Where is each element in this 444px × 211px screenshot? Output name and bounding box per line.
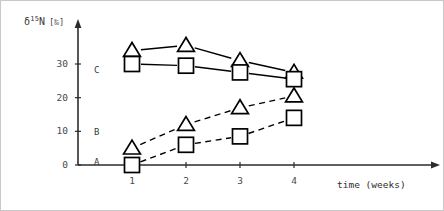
y-tick-label: 20 xyxy=(46,92,68,103)
series-segment-B-triangle xyxy=(249,98,285,106)
data-point-square-A xyxy=(125,158,140,173)
series-group-label-A: A xyxy=(94,157,99,167)
chart-figure: δ15N[‰] time (weeks) 01020301234 CBA xyxy=(0,0,444,211)
series-segment-C-triangle xyxy=(195,48,232,58)
series-segment-B-triangle xyxy=(195,110,232,121)
series-segment-C-square xyxy=(195,67,231,72)
data-point-triangle-B xyxy=(232,100,249,114)
data-point-triangle-C xyxy=(178,37,195,51)
data-point-triangle-B xyxy=(124,140,141,154)
data-point-square-C xyxy=(125,57,140,72)
y-tick-label: 0 xyxy=(46,159,68,170)
y-tick-label: 10 xyxy=(46,125,68,136)
series-segment-B-triangle xyxy=(140,128,178,144)
series-group-label-C: C xyxy=(94,65,99,75)
series-segment-A-square xyxy=(195,138,231,144)
series-segment-A-square xyxy=(140,148,177,162)
series-segment-C-triangle xyxy=(249,63,285,71)
y-axis-arrowhead xyxy=(75,19,82,28)
data-point-square-C xyxy=(233,65,248,80)
x-tick-label: 2 xyxy=(178,175,194,186)
series-lines-layer xyxy=(140,46,285,162)
data-point-triangle-B xyxy=(286,88,303,102)
x-tick-label: 4 xyxy=(286,175,302,186)
series-segment-C-triangle xyxy=(141,46,177,49)
series-markers-layer xyxy=(124,37,303,172)
series-segment-A-square xyxy=(249,121,286,134)
series-segment-C-square xyxy=(249,74,285,79)
data-point-square-A xyxy=(179,137,194,152)
data-point-square-A xyxy=(287,110,302,125)
x-tick-label: 1 xyxy=(124,175,140,186)
series-group-label-B: B xyxy=(94,127,99,137)
data-point-square-A xyxy=(233,129,248,144)
plot-area xyxy=(1,1,444,211)
data-point-triangle-C xyxy=(124,42,141,56)
y-tick-label: 30 xyxy=(46,58,68,69)
data-point-square-C xyxy=(179,58,194,73)
data-point-triangle-B xyxy=(178,117,195,131)
series-segment-C-square xyxy=(141,64,177,65)
data-point-square-C xyxy=(287,72,302,87)
x-axis-arrowhead xyxy=(431,162,440,169)
x-tick-label: 3 xyxy=(232,175,248,186)
